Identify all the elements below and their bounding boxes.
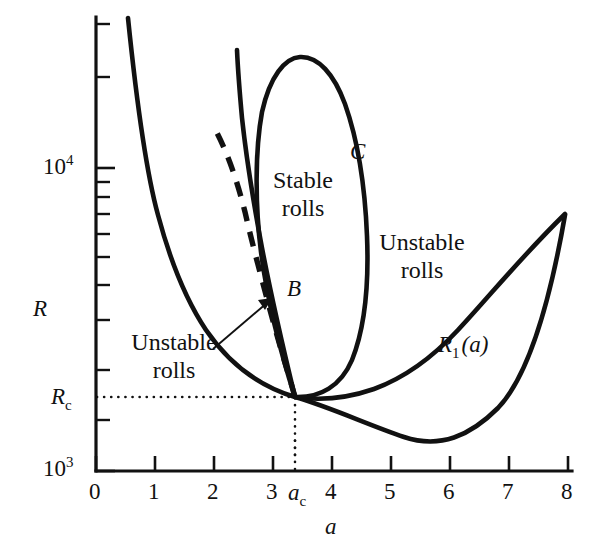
region-label-unstable-rolls-left: Unstable rolls [109,330,239,382]
y-tick-label-1e3: 103 [43,457,74,480]
curve-label-R1a: R1(a) [438,333,488,356]
region-label-unstable-rolls-right: Unstable rolls [357,230,487,282]
x-tick-label-2: 2 [207,480,219,503]
y-tick-label-Rc: Rc [51,385,72,408]
region-label-unstable-left-line2: rolls [109,358,239,382]
x-tick-label-8: 8 [561,480,573,503]
region-label-unstable-left-line1: Unstable [109,330,239,354]
x-tick-label-1: 1 [148,480,160,503]
x-axis-title: a [325,515,337,538]
region-label-stable-line1: Stable [248,168,358,192]
y-tick-label-1e4: 104 [43,155,74,178]
x-tick-label-4: 4 [325,480,337,503]
curve-label-B: B [287,277,301,300]
region-label-stable-rolls: Stable rolls [248,168,358,220]
x-tick-label-7: 7 [502,480,514,503]
x-axis-ticks [96,456,568,471]
x-tick-label-6: 6 [443,480,455,503]
curve-C [257,57,368,397]
y-axis-minor-ticks [96,24,110,420]
region-label-unstable-right-line1: Unstable [357,230,487,254]
y-axis-title: R [33,297,47,320]
region-label-unstable-right-line2: rolls [357,258,487,282]
region-label-stable-line2: rolls [248,196,358,220]
x-tick-label-3: 3 [266,480,278,503]
critical-point-guides [97,397,295,470]
x-tick-label-ac: ac [288,481,306,504]
x-tick-label-5: 5 [384,480,396,503]
figure-container: 104 103 Rc R 0 1 2 3 4 5 6 7 8 ac a Stab… [0,0,596,552]
curve-label-C: C [350,140,365,163]
x-tick-label-0: 0 [89,480,101,503]
